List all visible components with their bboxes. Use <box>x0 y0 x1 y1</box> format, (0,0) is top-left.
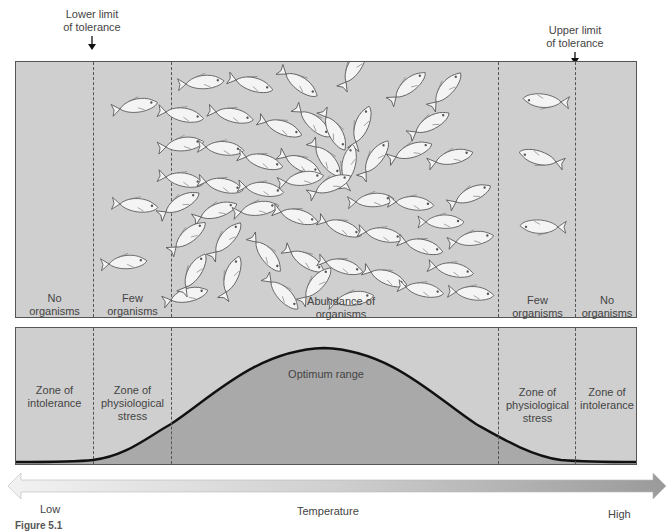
few-organisms-label-left: Few organisms <box>94 292 171 318</box>
no-organisms-label-right: No organisms <box>576 294 638 320</box>
figure-caption: Figure 5.1 <box>15 520 62 531</box>
figure-number: Figure 5.1 <box>15 520 62 531</box>
axis-low-label: Low <box>40 503 60 515</box>
few-organisms-label-right: Few organisms <box>499 294 576 320</box>
zone-intolerance-right-label: Zone of intolerance <box>576 386 638 412</box>
zone-intolerance-left-label: Zone of intolerance <box>16 384 93 410</box>
optimum-range-label: Optimum range <box>276 368 376 381</box>
fish-school-illustration <box>16 62 636 317</box>
axis-high-label: High <box>608 508 631 520</box>
no-organisms-label-left: No organisms <box>16 292 93 318</box>
tolerance-curve-panel: Zone of intolerance Zone of physiologica… <box>15 327 637 465</box>
zone-stress-left-label: Zone of physiological stress <box>94 384 171 423</box>
organism-abundance-panel: No organisms Few organisms Abundance of … <box>15 61 637 318</box>
lower-limit-label: Lower limit of tolerance <box>37 8 147 34</box>
abundance-label: Abundance of organisms <box>286 295 396 321</box>
upper-limit-label: Upper limit of tolerance <box>520 24 630 50</box>
temperature-axis-arrow <box>8 473 668 499</box>
axis-title: Temperature <box>297 505 359 517</box>
lower-limit-arrow-icon <box>87 36 97 50</box>
zone-stress-right-label: Zone of physiological stress <box>499 386 576 425</box>
optimum-start-line-bottom <box>171 328 172 464</box>
